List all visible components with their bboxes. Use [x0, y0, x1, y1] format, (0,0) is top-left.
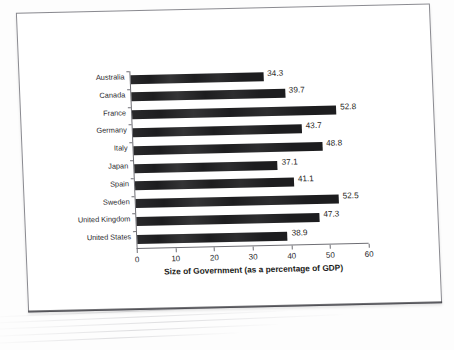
category-label: United Kingdom: [78, 215, 131, 225]
x-axis-tick: [137, 249, 138, 253]
category-label: Sweden: [103, 197, 130, 207]
category-label: Canada: [99, 90, 125, 100]
y-axis-tick: [129, 125, 132, 126]
x-axis-tick: [330, 245, 331, 249]
category-label: United States: [87, 232, 132, 242]
bar-value-label: 41.1: [298, 174, 314, 183]
y-axis-tick: [131, 196, 134, 197]
category-label: Japan: [108, 161, 129, 170]
x-axis-tick: [369, 244, 370, 248]
y-axis-tick: [129, 142, 132, 143]
y-axis-tick: [127, 89, 130, 90]
y-axis-tick: [126, 71, 129, 72]
bar: [132, 106, 337, 120]
bar: [133, 142, 322, 155]
bar-value-label: 52.8: [340, 102, 356, 111]
bar-value-label: 38.9: [291, 228, 307, 237]
y-axis-tick: [128, 107, 131, 108]
bar-chart: Australia34.3Canada39.7France52.8Germany…: [49, 55, 409, 298]
category-label: Germany: [96, 126, 127, 136]
x-axis-tick-label: 0: [135, 255, 140, 264]
bar-value-label: 47.3: [323, 209, 339, 218]
bar: [131, 72, 264, 84]
x-axis-tick: [175, 248, 176, 252]
x-axis-tick-label: 50: [326, 251, 335, 260]
bar-value-label: 48.8: [326, 138, 342, 147]
bar: [133, 124, 302, 137]
bar-series: Australia34.3Canada39.7France52.8Germany…: [129, 66, 361, 71]
bar-value-label: 39.7: [289, 86, 305, 95]
bar-value-label: 43.7: [306, 121, 322, 130]
document-page: Australia34.3Canada39.7France52.8Germany…: [16, 3, 442, 312]
bar: [137, 231, 288, 243]
bar-value-label: 37.1: [281, 157, 297, 166]
y-axis-tick: [132, 214, 135, 215]
category-label: France: [103, 108, 126, 118]
x-axis-tick-label: 60: [364, 250, 373, 259]
x-axis-tick: [214, 247, 215, 251]
bar: [135, 178, 294, 191]
bar: [134, 160, 278, 172]
bar-value-label: 52.5: [342, 191, 358, 200]
x-axis-title: Size of Government (as a percentage of G…: [137, 262, 369, 277]
bar-value-label: 34.3: [267, 68, 283, 77]
chart-plot-area: Australia34.3Canada39.7France52.8Germany…: [129, 66, 368, 249]
bar: [131, 89, 285, 101]
x-axis-tick-label: 10: [171, 254, 180, 263]
y-axis-tick: [131, 178, 134, 179]
category-label: Spain: [110, 179, 129, 188]
scanned-page-stage: Australia34.3Canada39.7France52.8Germany…: [0, 0, 454, 350]
x-axis-tick: [253, 246, 254, 250]
x-axis-tick-label: 30: [248, 252, 257, 261]
x-axis-tick-label: 20: [210, 253, 219, 262]
bar: [136, 195, 339, 209]
x-axis-tick-label: 40: [287, 251, 296, 260]
category-label: Australia: [96, 72, 125, 82]
bar: [136, 213, 319, 226]
category-label: Italy: [114, 143, 128, 152]
y-axis-tick: [133, 231, 136, 232]
x-axis-tick: [291, 246, 292, 250]
y-axis-tick: [130, 160, 133, 161]
